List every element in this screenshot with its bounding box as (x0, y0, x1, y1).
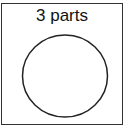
circle-shape (0, 0, 126, 135)
